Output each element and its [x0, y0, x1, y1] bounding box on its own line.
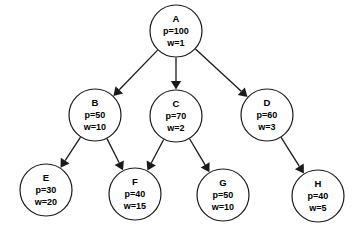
node-id-label: D [264, 97, 271, 108]
node-id-label: H [315, 178, 322, 189]
node-id-label: A [173, 13, 180, 24]
edge-b-f [107, 139, 124, 171]
arrow-head-icon [60, 158, 69, 168]
edge-d-h [281, 137, 304, 173]
graph-node-d[interactable]: Dp=60w=3 [241, 89, 293, 141]
arrow-head-icon [171, 81, 181, 90]
graph-canvas: Ap=100w=1Bp=50w=10Cp=70w=2Dp=60w=3Ep=30w… [0, 0, 360, 234]
node-id-label: E [43, 172, 49, 183]
edge-c-f [147, 139, 164, 170]
graph-node-a[interactable]: Ap=100w=1 [150, 5, 202, 57]
graph-node-e[interactable]: Ep=30w=20 [20, 164, 72, 216]
edge-b-e [60, 137, 80, 168]
node-profit-label: p=40 [308, 191, 329, 201]
node-weight-label: w=10 [211, 202, 234, 212]
edge-c-g [190, 139, 210, 172]
node-weight-label: w=5 [308, 203, 326, 213]
node-profit-label: p=40 [125, 189, 146, 199]
node-weight-label: w=1 [166, 38, 184, 48]
node-profit-label: p=50 [213, 190, 234, 200]
graph-node-h[interactable]: Hp=40w=5 [292, 170, 344, 222]
node-profit-label: p=100 [163, 26, 189, 36]
node-profit-label: p=50 [85, 110, 106, 120]
node-weight-label: w=2 [166, 123, 184, 133]
edge-a-d [195, 49, 247, 97]
node-id-label: C [173, 98, 180, 109]
node-weight-label: w=15 [123, 201, 146, 211]
node-weight-label: w=3 [257, 122, 275, 132]
edge-a-c [171, 58, 181, 90]
graph-node-b[interactable]: Bp=50w=10 [69, 89, 121, 141]
edge-a-b [113, 50, 157, 96]
graph-diagram: Ap=100w=1Bp=50w=10Cp=70w=2Dp=60w=3Ep=30w… [0, 0, 360, 234]
node-id-label: G [219, 177, 226, 188]
nodes-layer: Ap=100w=1Bp=50w=10Cp=70w=2Dp=60w=3Ep=30w… [20, 5, 344, 222]
graph-node-f[interactable]: Fp=40w=15 [109, 168, 161, 220]
node-id-label: B [92, 97, 99, 108]
graph-node-g[interactable]: Gp=50w=10 [197, 169, 249, 221]
node-weight-label: w=20 [34, 197, 57, 207]
graph-node-c[interactable]: Cp=70w=2 [150, 90, 202, 142]
node-profit-label: p=70 [166, 111, 187, 121]
node-weight-label: w=10 [83, 122, 106, 132]
node-id-label: F [132, 176, 138, 187]
arrow-head-icon [295, 164, 304, 174]
node-profit-label: p=30 [36, 185, 57, 195]
node-profit-label: p=60 [257, 110, 278, 120]
